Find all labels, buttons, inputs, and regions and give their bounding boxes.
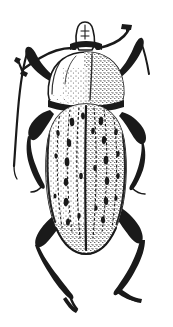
eye-right-icon <box>95 44 101 50</box>
elytral-spot-right-13 <box>94 205 97 211</box>
elytral-spot-left-11 <box>79 173 83 179</box>
elytral-spot-left-9 <box>54 193 57 198</box>
elytral-suture <box>85 106 86 250</box>
elytral-spot-right-10 <box>114 195 117 201</box>
beetle-illustration: Beetle dorsal view line illustration <box>0 0 173 327</box>
elytral-spot-right-12 <box>93 165 96 171</box>
elytral-spot-left-4 <box>64 178 68 186</box>
illustration-canvas: Beetle dorsal view line illustration <box>0 0 173 327</box>
elytral-spot-right-4 <box>105 177 109 185</box>
eye-left-icon <box>71 44 77 50</box>
